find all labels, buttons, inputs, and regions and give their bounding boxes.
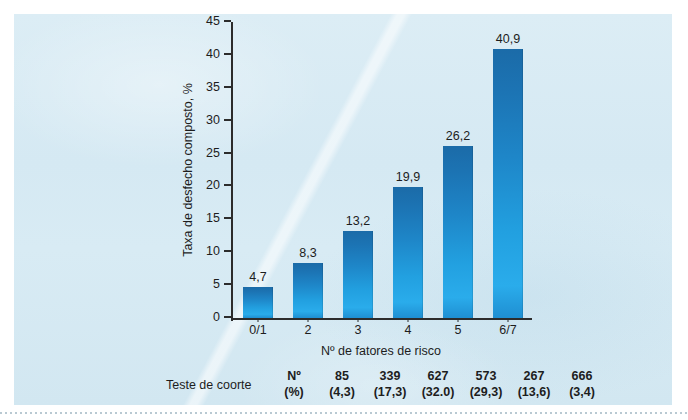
- y-axis-title: Taxa de desfecho composto, %: [181, 83, 195, 257]
- bar: 40,96/7: [493, 49, 523, 318]
- x-axis-tick: [358, 318, 359, 322]
- bar-value-label: 13,2: [346, 214, 370, 228]
- bar-value-label: 4,7: [249, 270, 266, 284]
- cohort-percent: (3,4): [558, 385, 606, 401]
- x-axis-tick: [408, 318, 409, 322]
- bar: 8,32: [293, 263, 323, 318]
- cohort-cells: Nº(%)85(4,3)339(17,3)627(32.0)573(29,3)2…: [270, 369, 606, 400]
- y-axis-tick: 20: [224, 184, 231, 186]
- bar-value-label: 40,9: [496, 32, 520, 46]
- y-axis-tick-label: 35: [206, 80, 220, 94]
- bar-value-label: 26,2: [446, 129, 470, 143]
- bottom-dotted-rule: [0, 412, 688, 414]
- y-axis-tick-label: 45: [206, 14, 220, 28]
- bar-value-label: 19,9: [396, 170, 420, 184]
- y-axis-tick-label: 10: [206, 244, 220, 258]
- x-axis-tick-label: 3: [355, 323, 362, 337]
- cohort-header-count: Nº: [270, 369, 318, 385]
- x-axis-tick-label: 0/1: [249, 323, 266, 337]
- y-axis-tick: 5: [224, 283, 231, 285]
- x-axis-tick-label: 4: [405, 323, 412, 337]
- cohort-count: 267: [510, 369, 558, 385]
- cohort-data-cell: 666(3,4): [558, 369, 606, 400]
- cohort-data-cell: 627(32.0): [414, 369, 462, 400]
- bar-chart-plot-area: 051015202530354045 4,70/18,3213,2319,942…: [231, 22, 531, 320]
- x-axis-tick: [308, 318, 309, 322]
- bar: 26,25: [443, 146, 473, 318]
- y-axis-tick: 10: [224, 250, 231, 252]
- y-axis-tick: 30: [224, 119, 231, 121]
- cohort-count: 573: [462, 369, 510, 385]
- y-axis-tick-label: 30: [206, 113, 220, 127]
- cohort-data-cell: 339(17,3): [366, 369, 414, 400]
- cohort-percent: (32.0): [414, 385, 462, 401]
- x-axis-tick: [508, 318, 509, 322]
- cohort-percent: (4,3): [318, 385, 366, 401]
- cohort-count: 85: [318, 369, 366, 385]
- x-axis-title: Nº de fatores de risco: [321, 344, 441, 358]
- x-axis-tick-label: 5: [455, 323, 462, 337]
- y-axis-tick-label: 20: [206, 178, 220, 192]
- y-axis-tick: 35: [224, 86, 231, 88]
- cohort-count: 627: [414, 369, 462, 385]
- cohort-data-cell: 267(13,6): [510, 369, 558, 400]
- cohort-data-cell: 85(4,3): [318, 369, 366, 400]
- cohort-data-cell: 573(29,3): [462, 369, 510, 400]
- cohort-percent: (17,3): [366, 385, 414, 401]
- bar: 13,23: [343, 231, 373, 318]
- cohort-count: 666: [558, 369, 606, 385]
- x-axis-tick-label: 6/7: [499, 323, 516, 337]
- cohort-header-percent: (%): [270, 385, 318, 401]
- bar-value-label: 8,3: [299, 246, 316, 260]
- y-axis-tick: 25: [224, 152, 231, 154]
- cohort-row-label: Teste de coorte: [166, 378, 266, 392]
- cohort-test-table: Teste de coorte Nº(%)85(4,3)339(17,3)627…: [166, 368, 606, 402]
- y-axis-tick-label: 25: [206, 146, 220, 160]
- y-axis-tick: 45: [224, 20, 231, 22]
- cohort-percent: (13,6): [510, 385, 558, 401]
- x-axis-tick: [458, 318, 459, 322]
- y-axis-tick-label: 40: [206, 47, 220, 61]
- x-axis-tick: [258, 318, 259, 322]
- y-axis-tick: 40: [224, 53, 231, 55]
- y-axis-tick-label: 5: [213, 277, 220, 291]
- x-axis-tick-label: 2: [305, 323, 312, 337]
- cohort-count: 339: [366, 369, 414, 385]
- x-axis-line: [231, 318, 532, 320]
- y-axis-tick: 0: [224, 316, 231, 318]
- y-axis-tick: 15: [224, 217, 231, 219]
- bar: 4,70/1: [243, 287, 273, 318]
- cohort-percent: (29,3): [462, 385, 510, 401]
- y-axis-tick-label: 0: [213, 310, 220, 324]
- bar: 19,94: [393, 187, 423, 318]
- y-axis-line: [231, 22, 233, 321]
- y-axis-tick-label: 15: [206, 211, 220, 225]
- cohort-header-cell: Nº(%): [270, 369, 318, 400]
